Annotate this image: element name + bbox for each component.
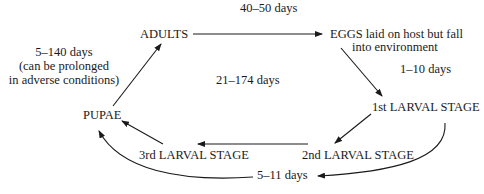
stage-larva2: 2nd LARVAL STAGE [302,148,414,162]
stage-pupae: PUPAE [83,108,121,122]
stage-eggs-line1: EGGS laid on host but fall [330,27,463,41]
arrow-larva3-to-pupae [122,121,163,144]
stage-eggs-line2: into environment [352,40,438,54]
arrow-larva1-to-larva2 [335,114,371,143]
duration-total-cycle: 21–174 days [216,73,280,87]
arrow-eggs-to-larva1 [341,48,382,96]
duration-pupae-to-adults-line1: 5–140 days [7,45,121,59]
duration-pupae-to-adults-line2: (can be prolonged [7,59,121,73]
duration-adults-to-eggs: 40–50 days [240,1,297,15]
stage-adults: ADULTS [140,27,188,41]
duration-larval-period: 5–11 days [257,168,308,182]
duration-pupae-to-adults-line3: in adverse conditions) [7,73,121,87]
stage-larva1: 1st LARVAL STAGE [372,100,480,114]
stage-larva3: 3rd LARVAL STAGE [139,148,249,162]
duration-eggs-to-larva1: 1–10 days [400,62,451,76]
